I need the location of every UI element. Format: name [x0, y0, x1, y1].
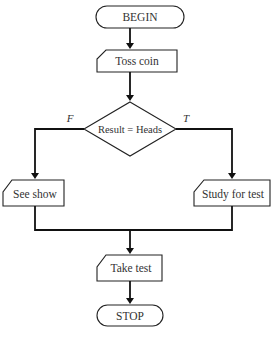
begin-node: BEGIN — [96, 6, 184, 28]
flowchart: BEGIN Toss coin Result = Heads F T See s… — [0, 0, 277, 344]
study-node: Study for test — [194, 180, 270, 206]
false-branch-label: F — [66, 112, 74, 124]
toss-coin-node: Toss coin — [97, 50, 177, 72]
decision-label: Result = Heads — [98, 124, 162, 135]
begin-label: BEGIN — [122, 11, 158, 23]
edge-merge — [35, 206, 232, 230]
decision-node: Result = Heads — [84, 102, 176, 156]
true-branch-label: T — [183, 112, 190, 124]
stop-label: STOP — [116, 310, 144, 322]
edge-decision-see-show — [35, 129, 84, 176]
study-label: Study for test — [202, 188, 265, 201]
edge-decision-study — [176, 129, 232, 176]
take-test-label: Take test — [110, 262, 152, 274]
stop-node: STOP — [97, 305, 163, 326]
see-show-node: See show — [3, 180, 64, 206]
toss-coin-label: Toss coin — [115, 55, 159, 67]
see-show-label: See show — [13, 188, 57, 200]
take-test-node: Take test — [97, 255, 162, 281]
